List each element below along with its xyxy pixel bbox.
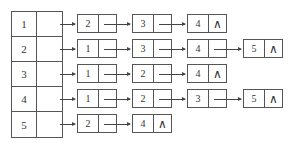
- node-data: 2: [78, 15, 99, 32]
- pointer-arrow: [214, 99, 241, 100]
- list-node: 5∧: [243, 89, 283, 108]
- head-vertex-label: 4: [12, 87, 36, 111]
- pointer-arrow: [104, 24, 130, 25]
- head-row-3: 3: [12, 62, 62, 87]
- head-first-pointer: [36, 112, 62, 137]
- null-pointer-icon: ∧: [154, 115, 171, 132]
- list-node: 4∧: [132, 114, 172, 133]
- pointer-arrow: [104, 99, 130, 100]
- head-first-pointer: [36, 62, 62, 86]
- head-row-4: 4: [12, 87, 62, 112]
- pointer-arrow: [104, 124, 130, 125]
- head-vertex-label: 5: [12, 112, 36, 137]
- node-data: 1: [78, 90, 99, 107]
- list-node: 5∧: [243, 39, 283, 58]
- node-data: 3: [188, 90, 209, 107]
- node-data: 3: [133, 15, 154, 32]
- head-row-5: 5: [12, 112, 62, 137]
- node-data: 5: [244, 40, 265, 57]
- pointer-arrow: [159, 49, 185, 50]
- null-pointer-icon: ∧: [265, 40, 282, 57]
- pointer-arrow: [159, 99, 185, 100]
- node-data: 2: [78, 115, 99, 132]
- head-row-1: 1: [12, 12, 62, 37]
- head-vertex-label: 2: [12, 37, 36, 61]
- pointer-arrow: [159, 24, 185, 25]
- pointer-arrow: [159, 74, 185, 75]
- pointer-arrow: [60, 24, 75, 25]
- node-data: 1: [78, 40, 99, 57]
- node-data: 4: [188, 40, 209, 57]
- head-first-pointer: [36, 12, 62, 36]
- pointer-arrow: [104, 74, 130, 75]
- pointer-arrow: [104, 49, 130, 50]
- node-data: 4: [188, 65, 209, 82]
- pointer-arrow: [60, 74, 75, 75]
- null-pointer-icon: ∧: [265, 90, 282, 107]
- head-row-2: 2: [12, 37, 62, 62]
- node-data: 5: [244, 90, 265, 107]
- list-node: 4∧: [187, 64, 227, 83]
- null-pointer-icon: ∧: [209, 65, 226, 82]
- vertex-head-table: 1 2 3 4 5: [11, 11, 63, 138]
- pointer-arrow: [214, 49, 241, 50]
- head-first-pointer: [36, 87, 62, 111]
- head-vertex-label: 1: [12, 12, 36, 36]
- node-data: 2: [133, 90, 154, 107]
- node-data: 1: [78, 65, 99, 82]
- head-vertex-label: 3: [12, 62, 36, 86]
- pointer-arrow: [60, 99, 75, 100]
- node-data: 4: [188, 15, 209, 32]
- node-data: 4: [133, 115, 154, 132]
- list-node: 4∧: [187, 14, 227, 33]
- node-data: 2: [133, 65, 154, 82]
- node-data: 3: [133, 40, 154, 57]
- head-first-pointer: [36, 37, 62, 61]
- pointer-arrow: [60, 124, 75, 125]
- null-pointer-icon: ∧: [209, 15, 226, 32]
- pointer-arrow: [60, 49, 75, 50]
